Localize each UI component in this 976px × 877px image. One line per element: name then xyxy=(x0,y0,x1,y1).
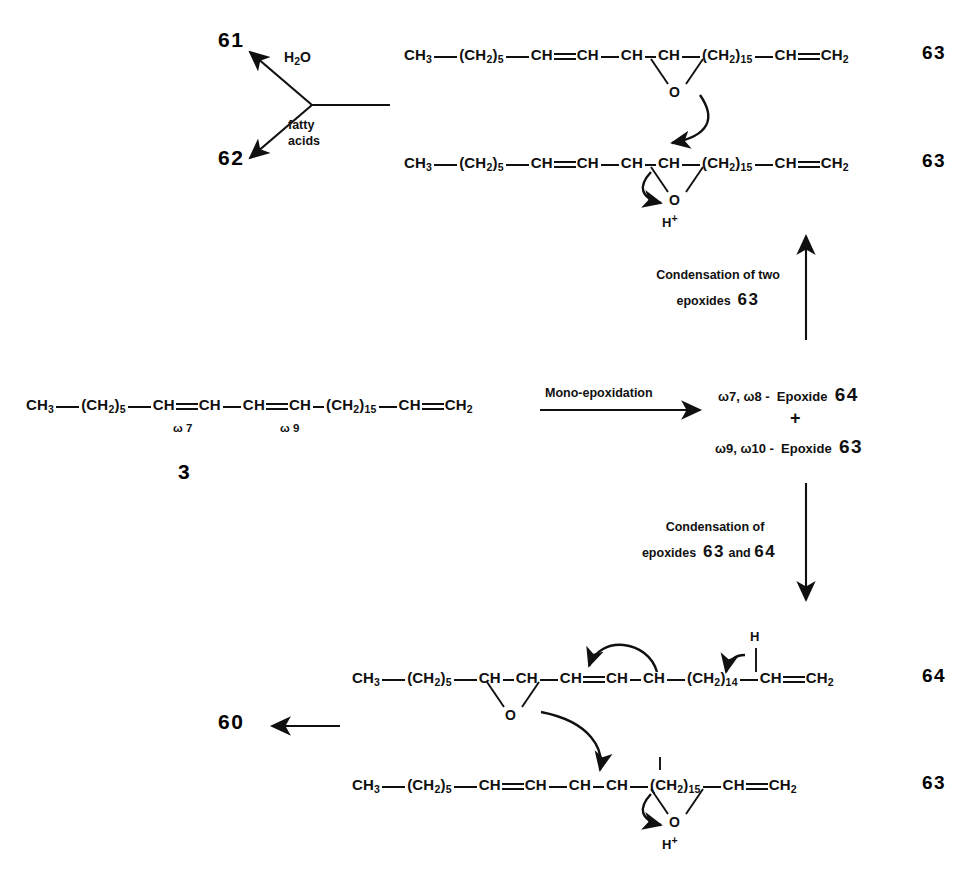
epoxide-oxygen-63-bottom: O xyxy=(669,814,680,830)
compound-64-label: 64 xyxy=(922,665,946,687)
plus-sign: + xyxy=(790,408,801,429)
product-epoxide-63: ω9, ω10 - Epoxide 63 xyxy=(715,436,863,458)
molecule-64: CH3(CH2)5CHCHCHCHCH(CH2)14CHCH2 xyxy=(352,669,834,688)
step-condensation-63-line1: Condensation of two xyxy=(648,268,788,282)
proton-label-top: H+ xyxy=(662,212,678,230)
step-condensation-63-64-line1: Condensation of xyxy=(640,520,790,534)
compound-62-label: 62 xyxy=(218,146,244,170)
product-epoxide-64: ω7, ω8 - Epoxide 64 xyxy=(718,384,859,406)
ch2-group-14: (CH2)14 xyxy=(687,669,738,688)
fatty-acids-label-line2: acids xyxy=(288,134,320,148)
epoxide-oxygen-top: O xyxy=(669,84,680,100)
compound-63-label-top: 63 xyxy=(922,42,946,64)
epoxide-oxygen-second: O xyxy=(669,192,680,208)
compound-60-label: 60 xyxy=(218,710,244,734)
step-condensation-63-line2: epoxides 63 xyxy=(648,290,788,310)
compound-63-label-second: 63 xyxy=(922,150,946,172)
molecule-63-bottom: CH3(CH2)5CHCHCHCH(CH2)15CHCH2 xyxy=(352,776,797,795)
water-label: H2O xyxy=(284,49,311,67)
ch2-group-5: (CH2)5 xyxy=(459,46,504,65)
molecule-63-top: CH3(CH2)5CHCHCHCH(CH2)15CHCH2 xyxy=(404,46,849,65)
compound-63-label-bottom: 63 xyxy=(922,772,946,794)
molecule-3: CH3(CH2)5CHCHCHCH(CH2)15CHCH2 xyxy=(26,396,473,415)
proton-label-bottom: H+ xyxy=(662,834,678,852)
epoxide-oxygen-64: O xyxy=(505,707,516,723)
ch3-terminal: CH3 xyxy=(404,46,432,65)
fatty-acids-label-line1: fatty xyxy=(288,118,314,132)
mechanism-curve-alkene-64 xyxy=(589,645,657,672)
reaction-scheme-canvas: 61 62 H2O fatty acids CH3(CH2)5CHCHCHCH(… xyxy=(0,0,976,877)
mechanism-curve-o-to-ch xyxy=(672,95,708,143)
molecule-63-second: CH3(CH2)5CHCHCHCH(CH2)15CHCH2 xyxy=(404,154,849,173)
ch2-group-15: (CH2)15 xyxy=(702,46,753,65)
step-condensation-63-64-line2: epoxides 63 and 64 xyxy=(628,542,790,562)
omega-9-label: ω 9 xyxy=(280,422,299,434)
step-mono-epoxidation-label: Mono-epoxidation xyxy=(545,386,653,400)
hydrogen-label-64: H xyxy=(750,629,759,644)
branch-arrow-lines xyxy=(250,52,390,158)
compound-3-label: 3 xyxy=(178,460,191,484)
mechanism-curve-o64-to-63 xyxy=(541,712,601,770)
omega-7-label: ω 7 xyxy=(173,422,192,434)
compound-61-label: 61 xyxy=(218,28,244,52)
